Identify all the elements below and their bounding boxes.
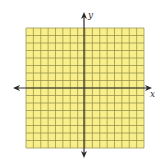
coordinate-plane: x y (0, 0, 162, 164)
x-axis-label: x (150, 89, 155, 99)
y-axis-label: y (87, 10, 94, 20)
